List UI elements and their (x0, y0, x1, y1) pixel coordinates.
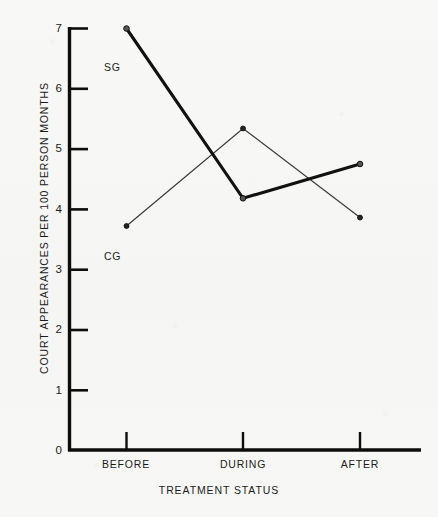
series-sg-line (127, 29, 361, 199)
y-axis-ticks (70, 29, 88, 391)
x-axis-title: TREATMENT STATUS (0, 484, 438, 496)
series-cg-point-before (124, 224, 129, 229)
x-tick-label-before: BEFORE (81, 458, 171, 470)
series-cg-point-after (358, 215, 363, 220)
series-cg-point-during (241, 126, 246, 131)
y-tick-label-0: 0 (40, 444, 62, 456)
series-sg-point-before (124, 26, 130, 32)
series-sg (124, 26, 363, 201)
x-tick-label-during: DURING (198, 458, 288, 470)
series-sg-point-during (240, 196, 246, 202)
x-axis-ticks (127, 432, 361, 449)
series-label-sg: SG (104, 61, 121, 73)
series-sg-point-after (357, 161, 363, 167)
line-chart-plot (0, 0, 438, 517)
y-axis-title: COURT APPEARANCES PER 100 PERSON MONTHS (38, 94, 50, 374)
chart-figure: 7 6 5 4 3 2 1 0 BEFORE DURING AFTER SG C… (0, 0, 438, 517)
series-label-cg: CG (104, 250, 121, 262)
series-cg-line (127, 128, 361, 226)
series-cg (124, 126, 363, 229)
y-tick-label-1: 1 (40, 384, 62, 396)
y-tick-label-7: 7 (40, 22, 62, 34)
x-tick-label-after: AFTER (315, 458, 405, 470)
